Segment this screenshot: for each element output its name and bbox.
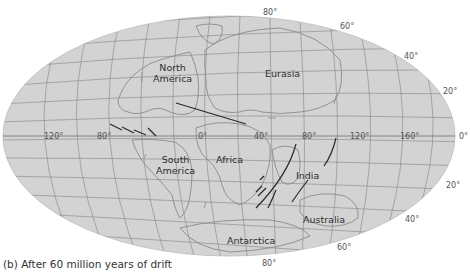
lat-label-n20: 20° <box>443 87 457 96</box>
lat-label-s40: 40° <box>405 215 419 224</box>
lat-label-s80: 80° <box>262 259 276 268</box>
south-america-line1: South <box>156 154 195 165</box>
north-america-line2: America <box>153 73 192 84</box>
lon-label-e80: 80° <box>302 132 316 141</box>
label-india: India <box>296 170 319 181</box>
lon-label-w120: 120° <box>44 132 63 141</box>
label-antarctica: Antarctica <box>227 235 275 246</box>
lon-label-e40: 40° <box>254 132 268 141</box>
lon-label-w80: 80° <box>97 132 111 141</box>
label-north-america: North America <box>153 62 192 84</box>
lat-label-n40: 40° <box>404 52 418 61</box>
lon-label-0: 0° <box>198 132 207 141</box>
label-south-america: South America <box>156 154 195 176</box>
lat-label-n80: 80° <box>263 8 277 17</box>
lon-label-edge-0: 0° <box>459 132 468 141</box>
lat-label-s20: 20° <box>446 181 460 190</box>
label-australia: Australia <box>303 214 345 225</box>
north-america-line1: North <box>153 62 192 73</box>
lat-label-s60: 60° <box>337 243 351 252</box>
label-africa: Africa <box>216 154 243 165</box>
figure-caption: (b) After 60 million years of drift <box>3 258 172 270</box>
label-eurasia: Eurasia <box>265 68 300 79</box>
south-america-line2: America <box>156 165 195 176</box>
lon-label-e120: 120° <box>350 132 369 141</box>
lon-label-e160: 160° <box>400 132 419 141</box>
lat-label-n60: 60° <box>340 22 354 31</box>
